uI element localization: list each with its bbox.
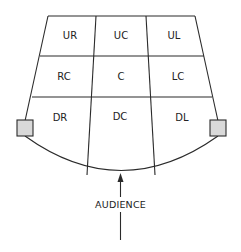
stage-left-edge xyxy=(25,16,48,121)
area-label-uc: UC xyxy=(114,30,128,41)
arrow-head-icon xyxy=(118,173,124,182)
area-label-ul: UL xyxy=(168,30,181,41)
column-divider-2 xyxy=(146,16,155,175)
right-speaker-box xyxy=(210,120,226,136)
column-divider-1 xyxy=(87,16,96,175)
area-label-dl: DL xyxy=(175,112,189,123)
area-label-dr: DR xyxy=(53,112,68,123)
area-label-lc: LC xyxy=(172,71,185,82)
area-label-rc: RC xyxy=(57,71,70,82)
audience-label: AUDIENCE xyxy=(95,199,146,210)
stage-apron-arc xyxy=(25,136,218,171)
stage-right-edge xyxy=(195,16,218,121)
area-label-c: C xyxy=(118,71,125,82)
area-label-ur: UR xyxy=(63,30,77,41)
left-speaker-box xyxy=(17,120,33,136)
stage-diagram: UR UC UL RC C LC DR DC DL AUDIENCE xyxy=(0,0,241,252)
area-label-dc: DC xyxy=(113,111,128,122)
